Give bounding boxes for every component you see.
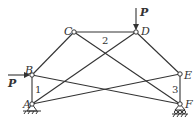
joint-f xyxy=(178,102,182,106)
truss-diagram: P P A B C D E F 1 2 3 xyxy=(0,0,195,132)
member-label-2: 2 xyxy=(102,35,108,46)
node-label-c: C xyxy=(64,25,73,38)
member-label-1: 1 xyxy=(35,84,41,95)
node-label-b: B xyxy=(24,64,33,77)
load-label-d: P xyxy=(139,6,149,19)
member-bc xyxy=(32,32,74,75)
node-label-d: D xyxy=(140,25,150,38)
member-de xyxy=(136,32,180,74)
joint-d xyxy=(134,30,138,34)
node-label-e: E xyxy=(183,69,192,82)
joint-e xyxy=(178,72,182,76)
load-label-b: P xyxy=(7,77,17,90)
joint-c xyxy=(72,30,76,34)
node-label-a: A xyxy=(22,98,31,111)
member-label-3: 3 xyxy=(172,84,178,95)
node-label-f: F xyxy=(184,98,193,111)
